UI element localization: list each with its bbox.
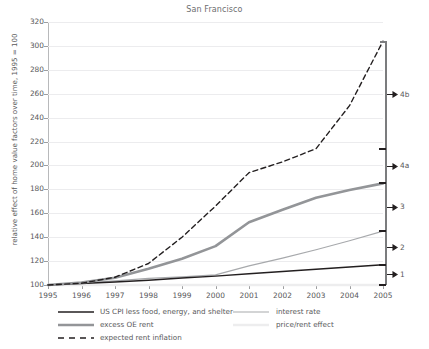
y-tick-label: 100: [4, 280, 44, 289]
annotation-label-1: 1: [400, 270, 422, 279]
bracket-boundary-tick: [379, 230, 386, 232]
y-tick-label: 220: [4, 137, 44, 146]
y-tick-label: 320: [4, 17, 44, 26]
series-line: [48, 41, 383, 285]
legend-swatch: [233, 321, 269, 329]
y-tick-label: 160: [4, 208, 44, 217]
legend-label: interest rate: [276, 307, 320, 316]
annotation-label-4b: 4b: [400, 90, 422, 99]
legend-label: expected rent inflation: [100, 333, 182, 342]
annotation-arrow-icon: [387, 91, 399, 98]
annotation-label-4a: 4a: [400, 161, 422, 170]
chart-root: San Francisco relative effect of home va…: [0, 0, 429, 349]
series-line: [48, 183, 383, 285]
legend-swatch: [58, 334, 94, 342]
y-tick-label: 120: [4, 256, 44, 265]
series-line: [48, 231, 383, 285]
x-tick-label: 2005: [363, 291, 403, 300]
annotation-arrow-icon: [387, 163, 399, 170]
y-tick-label: 300: [4, 41, 44, 50]
chart-legend: US CPI less food, energy, and shelterint…: [0, 304, 429, 349]
annotation-arrow-icon: [387, 271, 399, 278]
bracket-boundary-tick: [379, 148, 386, 150]
y-tick-label: 200: [4, 160, 44, 169]
annotation-arrow-icon: [387, 244, 399, 251]
series-lines: [48, 22, 384, 286]
legend-label: US CPI less food, energy, and shelter: [100, 307, 233, 316]
bracket-cap-top: [380, 41, 385, 42]
legend-label: excess OE rent: [100, 320, 154, 329]
bracket-boundary-tick: [379, 182, 386, 184]
y-tick-label: 180: [4, 184, 44, 193]
y-tick-label: 280: [4, 65, 44, 74]
annotation-label-2: 2: [400, 243, 422, 252]
bracket-boundary-tick: [379, 284, 386, 286]
bracket-boundary-tick: [379, 264, 386, 266]
legend-swatch: [58, 321, 94, 329]
y-tick-label: 140: [4, 232, 44, 241]
legend-swatch: [58, 308, 94, 316]
y-tick-label: 260: [4, 89, 44, 98]
annotation-arrow-icon: [387, 204, 399, 211]
legend-label: price/rent effect: [276, 320, 334, 329]
chart-title: San Francisco: [0, 5, 429, 14]
y-tick-label: 240: [4, 113, 44, 122]
legend-swatch: [233, 308, 269, 316]
annotation-label-3: 3: [400, 202, 422, 211]
